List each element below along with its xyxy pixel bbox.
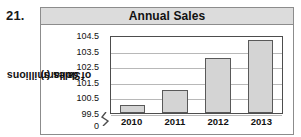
chart-title-bar: Annual Sales xyxy=(41,8,293,25)
bar xyxy=(205,58,231,113)
bar xyxy=(162,90,188,113)
bar-slot xyxy=(154,37,197,113)
x-axis-tick-label: 2010 xyxy=(110,116,153,127)
y-axis-tick-labels: 104.5103.5102.5101.5100.599.50 xyxy=(67,36,99,114)
chart-title: Annual Sales xyxy=(129,9,206,23)
bar xyxy=(248,40,274,113)
bar-slot xyxy=(239,37,282,113)
y-axis-tick-label: 103.5 xyxy=(76,47,99,57)
x-axis-tick-label: 2012 xyxy=(197,116,240,127)
y-axis-tick-label: 104.5 xyxy=(76,31,99,41)
bar-slot xyxy=(111,37,154,113)
chart-body: Sales (millions of dollars) 104.5103.510… xyxy=(41,25,293,134)
chart-figure-frame: Annual Sales Sales (millions of dollars)… xyxy=(40,7,294,135)
figure-container: 21. Annual Sales Sales (millions of doll… xyxy=(0,0,301,137)
x-axis-tick-label: 2013 xyxy=(240,116,283,127)
x-axis-tick-labels: 2010201120122013 xyxy=(110,116,283,127)
y-axis-tick-label: 99.5 xyxy=(81,109,99,119)
y-axis-tick-label: 102.5 xyxy=(76,62,99,72)
y-axis-tick-label: 101.5 xyxy=(76,78,99,88)
bar-slot xyxy=(197,37,240,113)
problem-number: 21. xyxy=(6,8,25,23)
plot-area xyxy=(110,36,283,114)
x-axis-tick-label: 2011 xyxy=(153,116,196,127)
bar xyxy=(120,105,146,113)
bar-series xyxy=(111,37,282,113)
y-axis-tick-label: 100.5 xyxy=(76,93,99,103)
